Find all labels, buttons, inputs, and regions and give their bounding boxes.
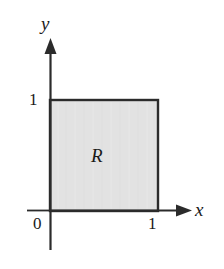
y-axis-tick-label-1: 1 [29, 91, 38, 108]
x-axis-tick-label-1: 1 [148, 215, 157, 232]
x-axis-arrowhead [176, 205, 192, 217]
y-axis-arrowhead [45, 38, 57, 54]
y-axis-label: y [41, 14, 49, 33]
x-axis-label: x [195, 200, 203, 219]
figure-canvas: y x 1 0 1 R [0, 0, 224, 269]
region-label-r: R [91, 146, 103, 165]
origin-label: 0 [33, 215, 42, 232]
